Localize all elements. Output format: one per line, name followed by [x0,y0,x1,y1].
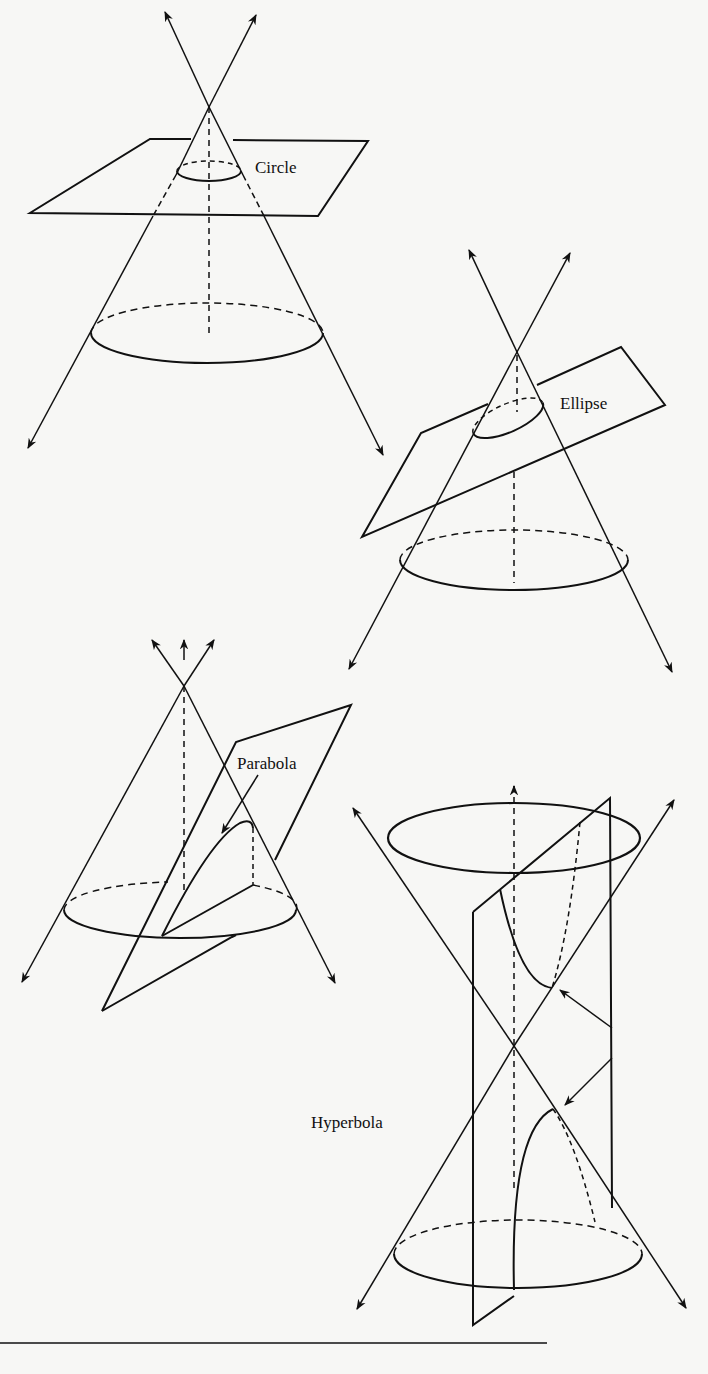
ellipse-label: Ellipse [560,394,607,414]
circle-label: Circle [255,158,297,178]
diagram-svg [0,0,708,1374]
circle-panel [28,12,383,455]
conic-sections-figure: Circle Ellipse Parabola Hyperbola [0,0,708,1374]
hyperbola-label: Hyperbola [311,1113,383,1133]
hyperbola-panel [353,786,686,1325]
ellipse-panel [349,250,672,672]
parabola-label: Parabola [237,754,296,774]
parabola-panel [22,640,351,1011]
